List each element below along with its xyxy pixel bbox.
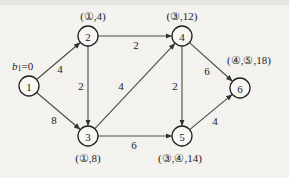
node-label-5: 5: [179, 131, 185, 143]
graph-diagram: 482246264 123456 b1=0(①,4)(①,8)(③,12)(③,…: [0, 0, 289, 178]
node-annotation-3: (①,8): [75, 152, 101, 165]
graph-canvas: 482246264 123456 b1=0(①,4)(①,8)(③,12)(③,…: [0, 0, 289, 178]
edge-4-6: [189, 43, 232, 81]
node-1: 1: [19, 76, 39, 96]
edge-weight-3-5: 6: [131, 139, 137, 151]
node-annotation-1: b1=0: [12, 60, 34, 73]
node-annotation-6: (④,⑤,18): [227, 54, 271, 67]
node-annotation-5: (③,④,14): [158, 152, 202, 165]
node-label-4: 4: [179, 31, 185, 43]
node-label-6: 6: [237, 83, 243, 95]
edge-3-4: [95, 44, 175, 129]
edge-weight-4-6: 6: [204, 65, 210, 77]
edges-group: 482246264: [37, 36, 233, 151]
edge-weight-1-3: 8: [51, 114, 57, 126]
edge-weight-1-2: 4: [57, 63, 63, 75]
edge-weight-4-5: 2: [172, 80, 178, 92]
edge-weight-2-3: 2: [78, 80, 84, 92]
edge-weight-5-6: 4: [212, 115, 218, 127]
edge-weight-2-4: 2: [133, 39, 139, 51]
node-annotation-2: (①,4): [80, 10, 106, 23]
edge-5-6: [190, 95, 232, 130]
edge-weight-3-4: 4: [118, 80, 124, 92]
edge-1-3: [37, 92, 80, 129]
node-annotation-4: (③,12): [166, 10, 197, 23]
node-label-2: 2: [85, 31, 91, 43]
node-3: 3: [78, 126, 98, 146]
node-label-1: 1: [26, 81, 32, 93]
node-label-3: 3: [85, 131, 91, 143]
node-6: 6: [230, 78, 250, 98]
node-2: 2: [78, 26, 98, 46]
node-5: 5: [172, 126, 192, 146]
node-4: 4: [172, 26, 192, 46]
